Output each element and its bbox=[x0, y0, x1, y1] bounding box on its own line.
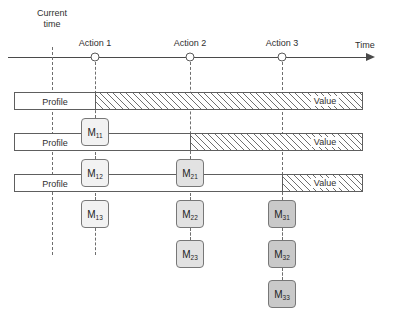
node-m23-sub: 23 bbox=[191, 254, 198, 261]
profile-bar-row-1: Profile bbox=[14, 92, 96, 110]
node-m32[interactable]: M32 bbox=[268, 240, 296, 268]
connector-m31-m32 bbox=[282, 228, 283, 240]
connector-m22-m23 bbox=[190, 228, 191, 240]
action-3-label: Action 3 bbox=[266, 38, 299, 49]
node-m22[interactable]: M22 bbox=[176, 200, 204, 228]
value-label-row-1: Value bbox=[311, 92, 339, 110]
action-2-marker-icon bbox=[186, 53, 195, 62]
profile-bar-row-3: Profile bbox=[14, 174, 283, 192]
node-m13-sub: 13 bbox=[96, 214, 103, 221]
node-m32-sub: 32 bbox=[283, 254, 290, 261]
node-m12[interactable]: M12 bbox=[81, 159, 109, 187]
node-m21-main: M bbox=[182, 168, 190, 179]
node-m21[interactable]: M21 bbox=[176, 159, 204, 187]
node-m33[interactable]: M33 bbox=[268, 280, 296, 308]
node-m22-sub: 22 bbox=[191, 214, 198, 221]
node-m23-main: M bbox=[182, 249, 190, 260]
action-2-label: Action 2 bbox=[174, 38, 207, 49]
node-m33-main: M bbox=[274, 289, 282, 300]
node-m32-main: M bbox=[274, 249, 282, 260]
node-m11[interactable]: M11 bbox=[81, 118, 109, 146]
node-m31[interactable]: M31 bbox=[268, 200, 296, 228]
current-time-label-line2: time bbox=[37, 19, 67, 30]
timeline-diagram: Current time Action 1 Action 2 Action 3 … bbox=[0, 0, 396, 317]
time-axis-label: Time bbox=[355, 40, 375, 51]
connector-m32-m33 bbox=[282, 268, 283, 280]
action-1-label: Action 1 bbox=[79, 38, 112, 49]
node-m33-sub: 33 bbox=[283, 294, 290, 301]
time-axis-arrow-icon bbox=[366, 53, 375, 61]
profile-label-row-1: Profile bbox=[15, 93, 95, 111]
node-m13-main: M bbox=[87, 209, 95, 220]
current-time-label: Current time bbox=[37, 8, 67, 30]
value-label-row-2: Value bbox=[311, 133, 339, 151]
value-label-row-3-text: Value bbox=[311, 178, 339, 188]
node-m11-main: M bbox=[87, 127, 95, 138]
node-m22-main: M bbox=[182, 209, 190, 220]
action-3-marker-icon bbox=[278, 53, 287, 62]
node-m12-sub: 12 bbox=[96, 173, 103, 180]
action-1-marker-icon bbox=[91, 53, 100, 62]
node-m21-sub: 21 bbox=[191, 173, 198, 180]
value-label-row-3: Value bbox=[311, 174, 339, 192]
node-m11-sub: 11 bbox=[96, 132, 103, 139]
node-m12-main: M bbox=[87, 168, 95, 179]
node-m13[interactable]: M13 bbox=[81, 200, 109, 228]
node-m23[interactable]: M23 bbox=[176, 240, 204, 268]
value-label-row-1-text: Value bbox=[311, 96, 339, 106]
value-label-row-2-text: Value bbox=[311, 137, 339, 147]
current-time-label-line1: Current bbox=[37, 8, 67, 19]
action-1-guideline-d bbox=[95, 228, 96, 255]
node-m31-sub: 31 bbox=[283, 214, 290, 221]
node-m31-main: M bbox=[274, 209, 282, 220]
